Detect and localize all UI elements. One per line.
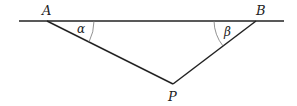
label-P: P [167, 89, 177, 104]
label-alpha: α [77, 22, 85, 36]
triangle-diagram: A B P α β [0, 0, 297, 106]
angle-arc-alpha [89, 21, 94, 42]
angle-arc-beta [214, 21, 223, 46]
label-beta: β [223, 25, 231, 39]
segment-BP [173, 21, 256, 84]
label-B: B [255, 3, 266, 18]
segment-AP [47, 21, 173, 84]
label-A: A [41, 3, 51, 18]
